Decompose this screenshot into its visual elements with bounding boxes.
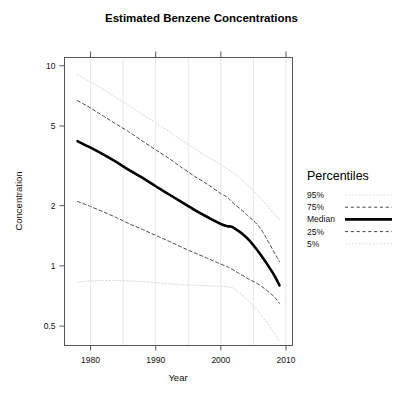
legend-entries: 95%75%Median25%5% <box>307 190 392 249</box>
x-tick-label: 2000 <box>211 355 230 365</box>
y-axis-ticks: 0.512510 <box>44 61 65 331</box>
x-axis-label: Year <box>168 372 187 383</box>
legend-label-95pct: 95% <box>307 190 324 200</box>
y-tick-label: 0.5 <box>44 321 56 331</box>
series-line-25pct <box>78 201 280 303</box>
chart-legend: Percentiles 95%75%Median25%5% <box>307 169 392 249</box>
series-line-median <box>78 141 280 285</box>
y-tick-label: 5 <box>51 121 56 131</box>
series-line-95pct <box>78 75 280 220</box>
series-line-5pct <box>78 280 280 341</box>
grid-lines <box>91 58 286 346</box>
y-tick-label: 2 <box>51 201 56 211</box>
chart-title: Estimated Benzene Concentrations <box>105 12 298 24</box>
x-tick-label: 1980 <box>81 355 100 365</box>
x-axis-ticks-top <box>91 52 286 58</box>
chart-container: Estimated Benzene Concentrations 1980199… <box>0 0 403 405</box>
y-tick-label: 10 <box>46 61 56 71</box>
legend-label-25pct: 25% <box>307 227 324 237</box>
legend-title: Percentiles <box>307 169 369 183</box>
legend-label-5pct: 5% <box>307 239 320 249</box>
x-axis-ticks: 1980199020002010 <box>81 346 296 365</box>
legend-label-median: Median <box>307 214 335 224</box>
y-axis-label: Concentration <box>13 171 24 230</box>
x-tick-label: 2010 <box>277 355 296 365</box>
legend-label-75pct: 75% <box>307 202 324 212</box>
series-line-75pct <box>78 101 280 262</box>
x-tick-label: 1990 <box>146 355 165 365</box>
benzene-concentration-chart: Estimated Benzene Concentrations 1980199… <box>0 0 403 405</box>
data-series-group <box>78 75 280 341</box>
y-tick-label: 1 <box>51 261 56 271</box>
